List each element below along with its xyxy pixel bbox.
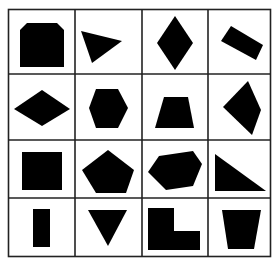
irregular-quadrilateral-shape xyxy=(223,81,261,135)
right-triangle-shape xyxy=(215,154,266,191)
tilted-rectangle-shape xyxy=(221,26,263,60)
rhombus-horizontal-shape xyxy=(14,90,70,126)
rhombus-vertical-shape xyxy=(157,16,193,70)
irregular-hexagon-shape xyxy=(148,151,202,190)
inverted-trapezoid-shape xyxy=(222,210,261,249)
clipped-corner-square-shape xyxy=(20,23,64,67)
inverted-triangle-shape xyxy=(88,210,127,246)
trapezoid-shape xyxy=(155,97,194,128)
triangle-shape xyxy=(81,31,122,63)
square-shape xyxy=(22,152,62,190)
hexagon-shape xyxy=(89,89,128,128)
pentagon-shape xyxy=(82,150,134,193)
narrow-rectangle-shape xyxy=(33,209,50,247)
shape-grid xyxy=(0,0,277,262)
l-shape xyxy=(148,208,200,250)
